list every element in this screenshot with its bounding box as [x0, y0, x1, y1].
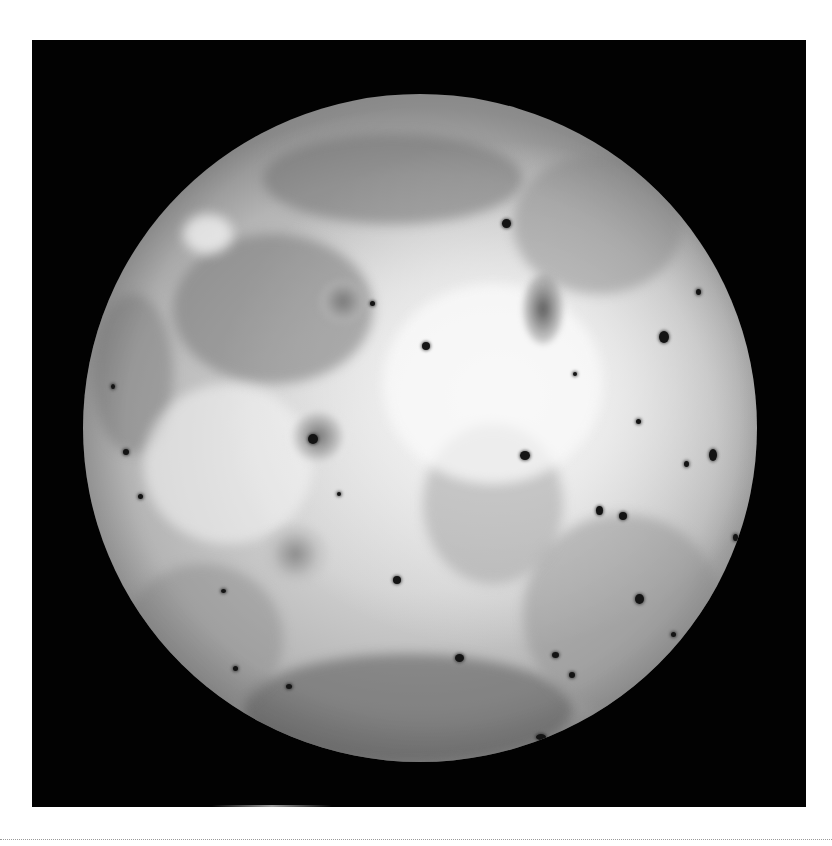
volcanic-spot: [422, 342, 430, 350]
volcanic-spot: [552, 652, 559, 658]
volcanic-spot: [536, 734, 546, 740]
volcanic-spot: [671, 632, 676, 637]
volcanic-spot: [502, 219, 511, 228]
volcanic-spot: [138, 494, 143, 499]
volcanic-spot: [370, 301, 375, 306]
volcanic-spot: [337, 492, 341, 496]
volcanic-spot: [221, 589, 226, 593]
volcanic-spot: [684, 461, 689, 467]
volcanic-spot: [573, 372, 577, 376]
volcanic-spot: [709, 449, 717, 461]
volcanic-halo-southwest: [263, 524, 328, 584]
frame-bottom-glint: [212, 805, 332, 807]
volcanic-spot: [635, 594, 644, 604]
volcanic-spot: [596, 506, 603, 515]
volcanic-spot: [636, 419, 641, 424]
dark-terrain-south: [243, 654, 573, 762]
volcanic-spot: [520, 451, 530, 460]
page: [0, 0, 832, 846]
volcanic-spot: [393, 576, 401, 584]
dotted-separator-line: [0, 839, 832, 840]
volcanic-spot: [233, 666, 238, 671]
image-frame: [32, 40, 806, 807]
volcanic-spot: [659, 331, 669, 343]
volcanic-spot: [455, 654, 464, 662]
pele-like-halo: [288, 409, 348, 464]
volcanic-spot: [286, 684, 292, 689]
volcanic-spot: [111, 384, 115, 389]
volcanic-spot: [619, 512, 627, 520]
volcanic-halo-north: [318, 279, 368, 324]
dark-terrain-northeast: [513, 154, 683, 294]
io-moon-disc: [83, 94, 757, 762]
volcanic-spot: [123, 449, 129, 455]
bright-plain-northwest: [183, 214, 233, 254]
volcanic-spot: [733, 534, 738, 541]
bright-plain-west: [143, 384, 313, 544]
bright-plain-center: [383, 284, 603, 484]
dark-terrain-north: [263, 134, 523, 224]
volcanic-spot: [569, 672, 575, 678]
volcanic-spot: [696, 289, 701, 295]
volcanic-spot: [308, 434, 318, 444]
dark-terrain-southwest: [123, 564, 283, 714]
volcanic-plume-north-center: [523, 274, 563, 344]
